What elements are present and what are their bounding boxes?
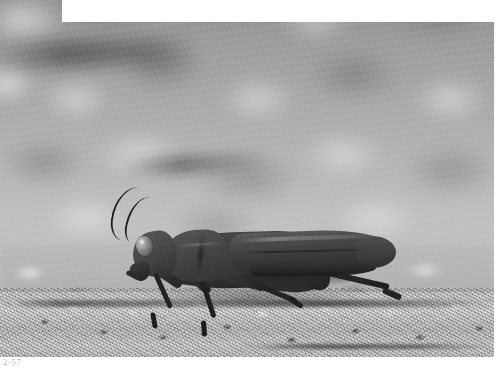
grasshopper-photograph bbox=[0, 0, 494, 357]
hind-tarsus bbox=[382, 287, 403, 301]
front-tarsus bbox=[150, 312, 158, 329]
page-root: 2-57 bbox=[0, 0, 501, 369]
figure-caption: 2-57 bbox=[3, 357, 21, 368]
rear-front-tarsus bbox=[201, 320, 207, 336]
eye-highlight bbox=[139, 239, 145, 245]
grasshopper-figure bbox=[0, 0, 494, 357]
